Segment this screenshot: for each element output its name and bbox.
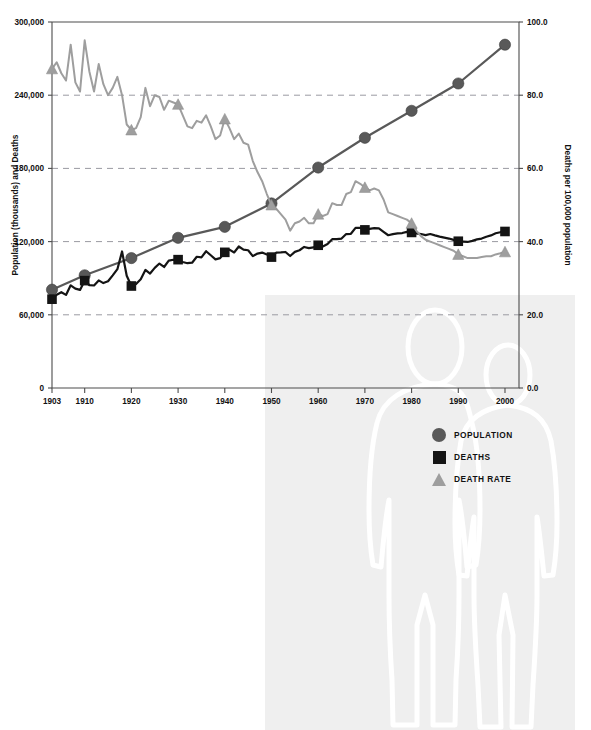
y2-tick-label: 80.0 bbox=[527, 91, 543, 100]
legend-item-death-rate: DEATH RATE bbox=[428, 468, 578, 490]
x-tick-label: 1980 bbox=[402, 397, 421, 406]
data-marker bbox=[359, 132, 370, 143]
y2-tick-label: 0.0 bbox=[527, 384, 539, 393]
data-marker bbox=[453, 236, 463, 246]
y2-tick-label: 40.0 bbox=[527, 238, 543, 247]
x-tick-label: 2000 bbox=[496, 397, 515, 406]
data-marker bbox=[313, 209, 324, 220]
circle-icon bbox=[428, 424, 450, 446]
y-tick-label: 300,000 bbox=[14, 18, 44, 27]
legend-item-deaths: DEATHS bbox=[428, 446, 578, 468]
x-tick-label: 1903 bbox=[43, 397, 62, 406]
data-series bbox=[46, 39, 510, 304]
legend-label-death-rate: DEATH RATE bbox=[454, 474, 511, 484]
chart-legend: POPULATION DEATHS DEATH RATE bbox=[428, 424, 578, 490]
data-marker bbox=[406, 105, 417, 116]
axis-ticks bbox=[48, 22, 523, 393]
series-line-deaths bbox=[52, 228, 505, 299]
chart-canvas: 060,000120,000180,000240,000300,0000.020… bbox=[0, 0, 591, 730]
data-marker bbox=[80, 276, 90, 286]
plot-frame bbox=[52, 22, 519, 388]
axis-frame bbox=[52, 22, 519, 388]
square-icon bbox=[428, 446, 450, 468]
y2-tick-label: 60.0 bbox=[527, 164, 543, 173]
data-marker bbox=[172, 232, 183, 243]
data-marker bbox=[313, 162, 324, 173]
legend-item-population: POPULATION bbox=[428, 424, 578, 446]
top-margin bbox=[0, 0, 591, 12]
data-marker bbox=[173, 255, 183, 265]
data-marker bbox=[220, 248, 230, 258]
data-marker bbox=[126, 252, 137, 263]
data-marker bbox=[127, 281, 137, 291]
data-marker bbox=[47, 294, 57, 304]
y-tick-label: 0 bbox=[39, 384, 44, 393]
axis-labels: 060,000120,000180,000240,000300,0000.020… bbox=[10, 18, 573, 406]
gridlines bbox=[52, 95, 519, 315]
y2-tick-label: 20.0 bbox=[527, 311, 543, 320]
data-marker bbox=[499, 246, 510, 257]
series-line-death-rate bbox=[52, 40, 505, 258]
x-tick-label: 1970 bbox=[356, 397, 375, 406]
x-tick-label: 1960 bbox=[309, 397, 328, 406]
data-marker bbox=[172, 99, 183, 110]
data-marker bbox=[267, 252, 277, 262]
figure-root: 060,000120,000180,000240,000300,0000.020… bbox=[0, 0, 591, 730]
y2-axis-title: Deaths per 100,000 population bbox=[563, 144, 573, 265]
data-marker bbox=[46, 284, 57, 295]
data-marker bbox=[219, 221, 230, 232]
x-tick-label: 1950 bbox=[262, 397, 281, 406]
data-marker bbox=[313, 240, 323, 250]
y-axis-title: Population (thousands) and Deaths bbox=[10, 134, 20, 275]
triangle-icon bbox=[428, 468, 450, 490]
x-tick-label: 1930 bbox=[169, 397, 188, 406]
legend-label-population: POPULATION bbox=[454, 430, 513, 440]
y-tick-label: 60,000 bbox=[19, 311, 44, 320]
data-marker bbox=[219, 113, 230, 124]
data-marker bbox=[499, 39, 510, 50]
legend-label-deaths: DEATHS bbox=[454, 452, 491, 462]
x-tick-label: 1910 bbox=[76, 397, 95, 406]
x-tick-label: 1940 bbox=[216, 397, 235, 406]
x-tick-label: 1920 bbox=[122, 397, 141, 406]
y2-tick-label: 100.0 bbox=[527, 18, 548, 27]
x-tick-label: 1990 bbox=[449, 397, 468, 406]
data-marker bbox=[500, 227, 510, 237]
data-marker bbox=[453, 78, 464, 89]
data-marker bbox=[360, 225, 370, 235]
y-tick-label: 240,000 bbox=[14, 91, 44, 100]
